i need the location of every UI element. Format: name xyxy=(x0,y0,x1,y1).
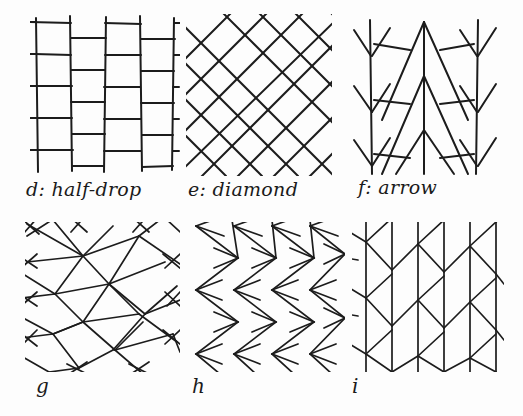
arrow-drawing xyxy=(352,14,498,176)
figure-g xyxy=(25,222,180,372)
caption-half-drop: d: half-drop xyxy=(26,178,141,200)
caption-i: i xyxy=(352,374,359,398)
caption-h: h xyxy=(192,374,205,398)
figure-i xyxy=(352,222,504,372)
caption-g: g xyxy=(36,374,49,398)
caption-arrow: f: arrow xyxy=(358,176,437,198)
figure-half-drop xyxy=(30,14,180,176)
figure-h xyxy=(190,222,345,372)
diamond-drawing xyxy=(186,14,332,176)
half-drop-drawing xyxy=(30,14,180,176)
caption-diamond: e: diamond xyxy=(188,178,298,200)
h-drawing xyxy=(190,222,345,372)
g-drawing xyxy=(25,222,180,372)
pattern-sheet: d: half-drop xyxy=(0,0,523,416)
figure-diamond xyxy=(186,14,332,176)
figure-arrow xyxy=(352,14,498,176)
i-drawing xyxy=(352,222,504,372)
